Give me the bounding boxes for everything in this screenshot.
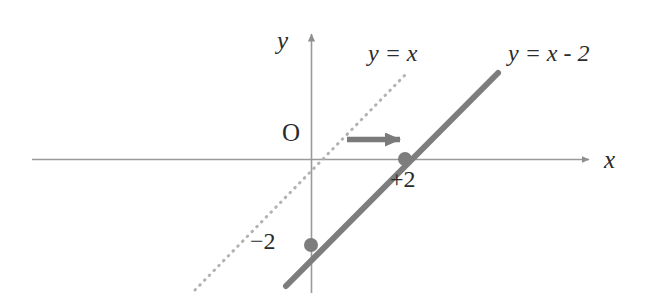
point-x-intercept (398, 152, 412, 166)
label-y-equals-x-minus-2: y = x - 2 (508, 41, 590, 65)
label-x-intercept-value: +2 (390, 167, 416, 191)
y-axis-label: y (277, 28, 288, 53)
origin-label: O (282, 120, 300, 145)
label-y-equals-x: y = x (368, 41, 418, 65)
x-axis-label: x (604, 147, 615, 172)
graph-figure: y x O y = x y = x - 2 −2 +2 (0, 0, 651, 299)
line-y-equals-x (195, 74, 406, 290)
label-y-intercept-value: −2 (250, 229, 276, 253)
point-y-intercept (304, 238, 318, 252)
